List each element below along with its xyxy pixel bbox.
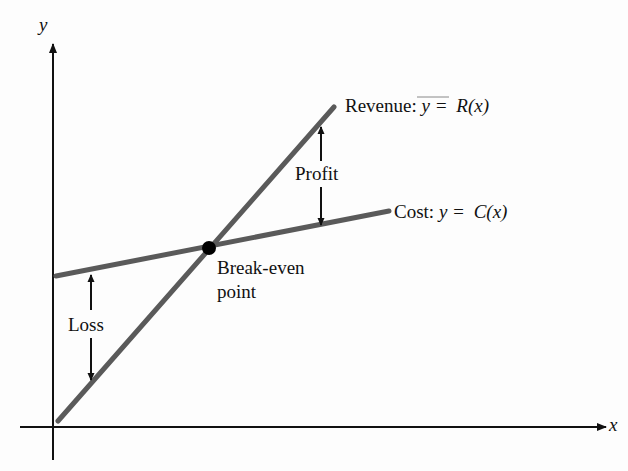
break-even-point (202, 241, 216, 255)
y-axis-label: y (39, 14, 47, 36)
cost-label-y: y (439, 201, 447, 222)
revenue-label-eq: = R(x) (435, 95, 489, 116)
break-even-diagram: y x Revenue: y = R(x) Cost: y = C(x) Pro… (0, 0, 628, 471)
break-even-label-line2: point (217, 281, 256, 303)
cost-label-eq: = C(x) (452, 201, 507, 222)
loss-label: Loss (68, 314, 104, 336)
diagram-graphics (0, 0, 628, 471)
x-axis-label: x (609, 414, 617, 436)
break-even-label-line1: Break-even (217, 257, 305, 279)
profit-label: Profit (295, 163, 338, 185)
revenue-label-prefix: Revenue: (345, 95, 417, 116)
revenue-label-y: y (422, 95, 430, 116)
cost-label: Cost: y = C(x) (394, 201, 507, 223)
cost-label-prefix: Cost: (394, 201, 434, 222)
revenue-label: Revenue: y = R(x) (345, 95, 489, 117)
